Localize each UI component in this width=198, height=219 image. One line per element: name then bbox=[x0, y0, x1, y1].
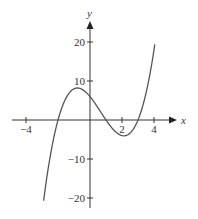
x-axis-label: x bbox=[180, 114, 186, 126]
y-tick-label: −10 bbox=[68, 153, 86, 165]
y-axis-arrow-icon bbox=[87, 21, 94, 29]
cubic-function-chart: x y −4242010−10−20 bbox=[0, 0, 198, 219]
y-tick-label: 20 bbox=[74, 36, 86, 48]
function-curve bbox=[44, 44, 155, 200]
y-tick-label: 10 bbox=[74, 75, 86, 87]
x-tick-label: 4 bbox=[151, 123, 157, 135]
x-axis-arrow-icon bbox=[169, 117, 177, 124]
x-tick-label: 2 bbox=[119, 123, 125, 135]
y-axis-label: y bbox=[86, 7, 92, 19]
x-tick-label: −4 bbox=[20, 123, 32, 135]
y-tick-label: −20 bbox=[68, 192, 86, 204]
